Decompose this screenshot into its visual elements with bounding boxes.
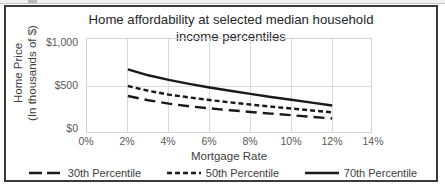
x-tick-label-14: 14% <box>353 135 393 147</box>
legend-item-50th-percentile[interactable]: 50th Percentile <box>167 167 279 179</box>
y-tick-label-0: $0 <box>26 122 78 134</box>
x-axis-title: Mortgage Rate <box>86 150 372 162</box>
chart-legend: 30th Percentile 50th Percentile 70th Per… <box>16 165 430 181</box>
short-dash-swatch-icon <box>167 168 201 178</box>
y-tick-label-500: $500 <box>26 79 78 91</box>
x-tick-label-2: 2% <box>107 135 147 147</box>
x-tick-label-10: 10% <box>271 135 311 147</box>
x-tick-label-0: 0% <box>66 135 106 147</box>
y-axis-title-line-1: Home Price <box>11 18 25 128</box>
top-strip-divider <box>0 3 445 4</box>
solid-line-swatch-icon <box>305 168 339 178</box>
screenshot-root: Home affordability at selected median ho… <box>0 0 445 187</box>
legend-label-50th-percentile: 50th Percentile <box>206 167 279 179</box>
chart-frame: Home affordability at selected median ho… <box>4 5 438 182</box>
legend-item-70th-percentile[interactable]: 70th Percentile <box>305 167 417 179</box>
long-dash-swatch-icon <box>29 168 63 178</box>
y-tick-label-1000: $1,000 <box>26 36 78 48</box>
chart-title-line-1: Home affordability at selected median ho… <box>89 12 374 27</box>
series-line-30th-percentile <box>128 96 332 119</box>
series-plot-svg <box>87 39 373 134</box>
legend-label-70th-percentile: 70th Percentile <box>344 167 417 179</box>
x-tick-label-12: 12% <box>312 135 352 147</box>
x-tick-label-4: 4% <box>148 135 188 147</box>
y-axis-title: Home Price (In thousands of $) <box>11 18 39 128</box>
legend-item-30th-percentile[interactable]: 30th Percentile <box>29 167 141 179</box>
plot-area <box>86 38 372 133</box>
legend-label-30th-percentile: 30th Percentile <box>68 167 141 179</box>
x-tick-label-8: 8% <box>230 135 270 147</box>
series-line-70th-percentile <box>128 69 332 105</box>
y-axis-title-line-2: (In thousands of $) <box>25 18 39 128</box>
x-tick-label-6: 6% <box>189 135 229 147</box>
